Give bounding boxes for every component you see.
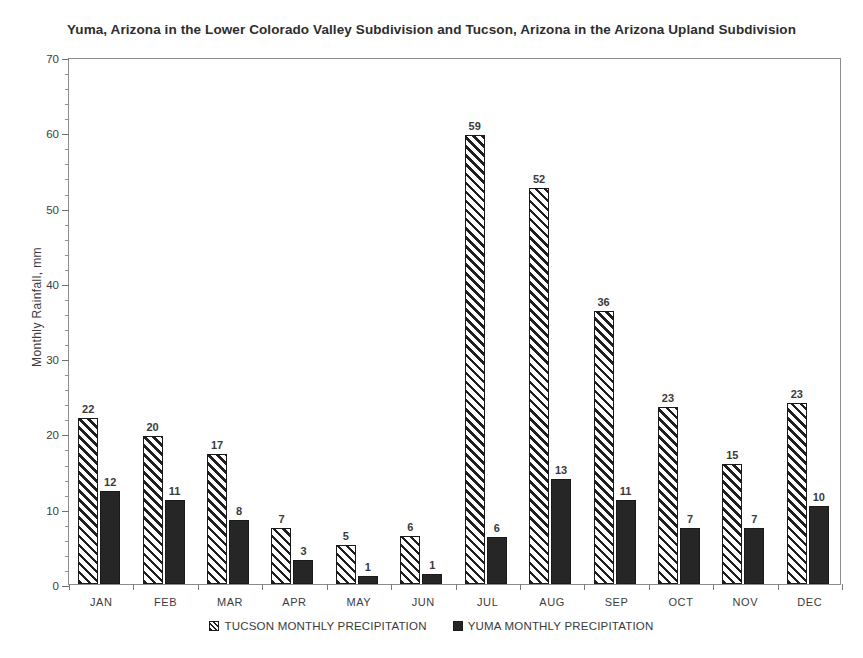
bar-value-label: 10 [813, 491, 825, 503]
x-axis-tick-label: AUG [539, 596, 565, 608]
bar-tucson-jan[interactable]: 22 [78, 418, 98, 584]
y-axis-minor-tick [65, 195, 69, 196]
bar-tucson-oct[interactable]: 23 [658, 407, 678, 584]
bar-tucson-apr[interactable]: 7 [271, 528, 291, 584]
y-axis-major-tick [62, 134, 69, 135]
bar-yuma-jun[interactable]: 1 [422, 574, 442, 584]
bar-value-label: 23 [791, 388, 803, 400]
bar-yuma-sep[interactable]: 11 [616, 500, 636, 584]
y-axis-minor-tick [65, 375, 69, 376]
bar-tucson-sep[interactable]: 36 [594, 311, 614, 584]
bar-value-label: 52 [533, 173, 545, 185]
x-axis-tick-label: JUN [412, 596, 435, 608]
bar-value-label: 6 [407, 521, 413, 533]
bar-tucson-may[interactable]: 5 [336, 545, 356, 584]
bar-value-label: 7 [687, 513, 693, 525]
y-axis-minor-tick [65, 240, 69, 241]
legend-label: TUCSON MONTHLY PRECIPITATION [224, 620, 426, 632]
bar-yuma-feb[interactable]: 11 [165, 500, 185, 584]
bar-value-label: 15 [726, 449, 738, 461]
y-axis-minor-tick [65, 330, 69, 331]
y-axis-major-tick [62, 435, 69, 436]
bar-value-label: 1 [429, 559, 435, 571]
y-axis-minor-tick [65, 450, 69, 451]
y-axis-minor-tick [65, 496, 69, 497]
bar-yuma-mar[interactable]: 8 [229, 520, 249, 584]
y-axis-major-tick [62, 511, 69, 512]
bar-tucson-jun[interactable]: 6 [400, 536, 420, 584]
y-axis-minor-tick [65, 526, 69, 527]
y-axis-tick-label: 20 [46, 429, 59, 441]
bar-yuma-dec[interactable]: 10 [809, 506, 829, 584]
y-axis-tick-label: 50 [46, 204, 59, 216]
x-axis-tick [391, 584, 392, 590]
x-axis-tick [713, 584, 714, 590]
bar-tucson-aug[interactable]: 52 [529, 188, 549, 584]
x-axis-tick [584, 584, 585, 590]
y-axis-minor-tick [65, 571, 69, 572]
y-axis-tick-label: 40 [46, 279, 59, 291]
bar-value-label: 17 [211, 439, 223, 451]
y-axis-minor-tick [65, 164, 69, 165]
x-axis-tick [778, 584, 779, 590]
y-axis-minor-tick [65, 255, 69, 256]
bar-value-label: 11 [169, 485, 181, 497]
y-axis-major-tick [62, 59, 69, 60]
chart-legend: TUCSON MONTHLY PRECIPITATIONYUMA MONTHLY… [0, 620, 863, 632]
bar-tucson-feb[interactable]: 20 [143, 436, 163, 584]
bar-yuma-aug[interactable]: 13 [551, 479, 571, 584]
bar-value-label: 5 [343, 530, 349, 542]
x-axis-tick-label: APR [282, 596, 306, 608]
y-axis-tick-label: 60 [46, 128, 59, 140]
bar-value-label: 6 [494, 522, 500, 534]
bar-tucson-nov[interactable]: 15 [722, 464, 742, 584]
bar-yuma-may[interactable]: 1 [358, 576, 378, 584]
chart-figure: Yuma, Arizona in the Lower Colorado Vall… [0, 0, 863, 658]
x-axis-tick-label: SEP [605, 596, 629, 608]
y-axis-minor-tick [65, 119, 69, 120]
bar-yuma-apr[interactable]: 3 [293, 560, 313, 584]
x-axis-tick-label: JAN [90, 596, 113, 608]
bar-value-label: 36 [597, 296, 609, 308]
y-axis-tick-label: 70 [46, 53, 59, 65]
y-axis-minor-tick [65, 390, 69, 391]
bar-value-label: 12 [104, 476, 116, 488]
x-axis-tick [198, 584, 199, 590]
y-axis-minor-tick [65, 541, 69, 542]
x-axis-tick [69, 584, 70, 590]
x-axis-tick-label: DEC [797, 596, 822, 608]
y-axis-minor-tick [65, 300, 69, 301]
x-axis-tick [456, 584, 457, 590]
bar-value-label: 20 [147, 421, 159, 433]
bar-yuma-jan[interactable]: 12 [100, 491, 120, 584]
bar-yuma-oct[interactable]: 7 [680, 528, 700, 584]
bar-value-label: 3 [300, 545, 306, 557]
bar-yuma-jul[interactable]: 6 [487, 537, 507, 584]
y-axis-minor-tick [65, 149, 69, 150]
legend-swatch-icon [209, 621, 219, 631]
y-axis-minor-tick [65, 481, 69, 482]
bar-tucson-mar[interactable]: 17 [207, 454, 227, 584]
y-axis-minor-tick [65, 270, 69, 271]
bar-value-label: 22 [82, 403, 94, 415]
y-axis-title: Monthly Rainfall, mm [30, 207, 44, 407]
chart-title: Yuma, Arizona in the Lower Colorado Vall… [0, 22, 863, 37]
bar-value-label: 1 [365, 561, 371, 573]
y-axis-tick-label: 10 [46, 505, 59, 517]
bar-tucson-jul[interactable]: 59 [465, 135, 485, 584]
y-axis-major-tick [62, 210, 69, 211]
y-axis-minor-tick [65, 104, 69, 105]
plot-area: 010203040506070 JANFEBMARAPRMAYJUNJULAUG… [68, 58, 841, 585]
legend-item-tucson[interactable]: TUCSON MONTHLY PRECIPITATION [209, 620, 426, 632]
x-axis-tick-label: OCT [668, 596, 693, 608]
y-axis-major-tick [62, 360, 69, 361]
x-axis-tick-label: MAR [217, 596, 243, 608]
legend-item-yuma[interactable]: YUMA MONTHLY PRECIPITATION [453, 620, 654, 632]
y-axis-minor-tick [65, 315, 69, 316]
y-axis-minor-tick [65, 405, 69, 406]
y-axis-tick-label: 0 [53, 580, 59, 592]
bar-tucson-dec[interactable]: 23 [787, 403, 807, 584]
y-axis-minor-tick [65, 74, 69, 75]
bar-yuma-nov[interactable]: 7 [744, 528, 764, 584]
x-axis-tick-label: JUL [477, 596, 498, 608]
